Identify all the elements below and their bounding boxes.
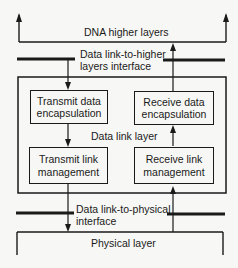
receive-link-line2: management — [143, 166, 204, 179]
transmit-data-encapsulation-block: Transmit data encapsulation — [30, 90, 108, 124]
transmit-link-line1: Transmit link — [39, 153, 98, 166]
lower-interface-label-line1: Data link-to-physical — [76, 203, 171, 215]
receive-link-management-block: Receive link management — [134, 147, 214, 184]
upper-interface-label-line1: Data link-to-higher — [80, 48, 166, 60]
higher-layers-label: DNA higher layers — [84, 26, 169, 38]
upper-interface-label-line2: layers interface — [80, 60, 151, 72]
physical-layer-label: Physical layer — [91, 237, 156, 249]
transmit-data-line2: encapsulation — [37, 107, 102, 120]
transmit-data-line1: Transmit data — [37, 95, 101, 108]
receive-data-line1: Receive data — [143, 96, 204, 109]
data-link-layer-label: Data link layer — [91, 130, 158, 142]
lower-interface-label-line2: interface — [76, 215, 116, 227]
transmit-link-line2: management — [38, 166, 99, 179]
receive-data-line2: encapsulation — [142, 108, 207, 121]
receive-link-line1: Receive link — [146, 153, 203, 166]
receive-data-encapsulation-block: Receive data encapsulation — [134, 91, 214, 125]
transmit-link-management-block: Transmit link management — [29, 147, 108, 184]
